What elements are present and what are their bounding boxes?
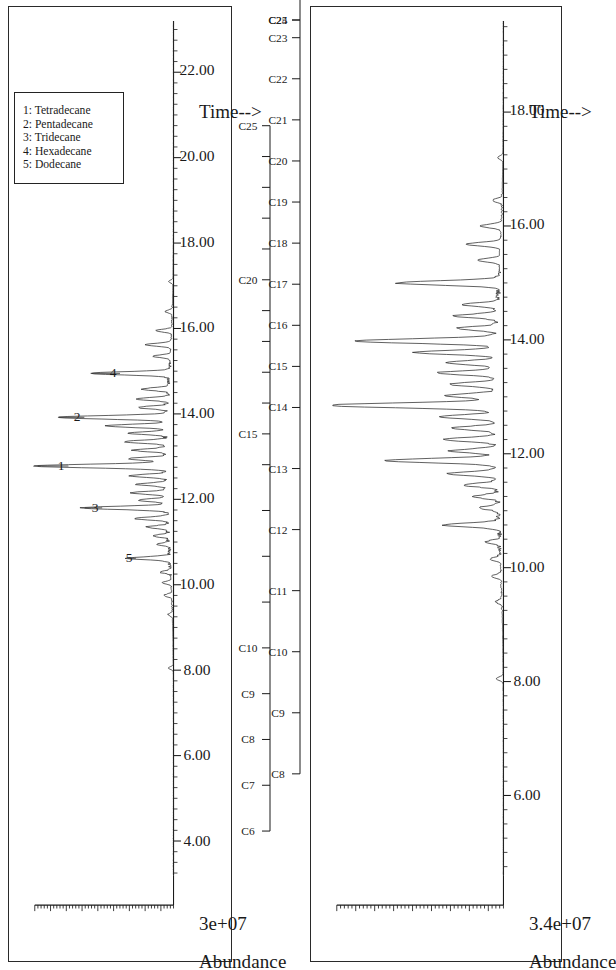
x-axis-tick-label: 22.00: [167, 61, 227, 79]
x-axis-tick-label: 14.00: [167, 404, 227, 422]
x-axis-tick-label: 8.00: [497, 672, 557, 690]
peak-number-label: 5: [126, 550, 133, 566]
panel-bottom-rotated-frame: Abundance 3.4e+07 Time--> 6.008.0010.001…: [310, 6, 562, 962]
carbon-number-tick-label: C16: [258, 319, 298, 331]
chromatogram-trace-bottom: [311, 7, 561, 961]
carbon-number-tick-label: C10: [258, 646, 298, 658]
x-axis-tick-label: 18.00: [497, 101, 557, 119]
peak-number-label: 3: [92, 500, 99, 516]
x-axis-tick-label: 6.00: [167, 746, 227, 764]
carbon-number-tick-label: C7: [228, 779, 268, 791]
carbon-number-tick-label: C14: [258, 401, 298, 413]
carbon-number-tick-label: C23: [258, 32, 298, 44]
carbon-number-tick-label: C25: [258, 14, 298, 26]
x-axis-tick-label: 6.00: [497, 786, 557, 804]
carbon-number-tick-label: C11: [258, 585, 298, 597]
x-axis-tick-label: 8.00: [167, 661, 227, 679]
carbon-number-tick-label: C21: [258, 114, 298, 126]
y-axis-label-bottom: Abundance: [529, 951, 616, 970]
x-axis-tick-label: 12.00: [497, 444, 557, 462]
legend-entry: 1: Tetradecane: [23, 104, 115, 118]
carbon-ruler-ticks-bottom: [266, 6, 312, 962]
carbon-number-tick-label: C8: [258, 768, 298, 780]
x-axis-tick-label: 10.00: [497, 558, 557, 576]
peak-number-label: 1: [58, 458, 65, 474]
carbon-ruler-bottom-rotated-frame: C8C9C10C11C12C13C14C15C16C17C18C19C20C21…: [266, 6, 312, 962]
carbon-number-tick-label: C13: [258, 463, 298, 475]
carbon-number-tick-label: C6: [228, 825, 268, 837]
x-axis-tick-label: 12.00: [167, 489, 227, 507]
x-axis-tick-label: 16.00: [167, 318, 227, 336]
legend-entry: 2: Pentadecane: [23, 118, 115, 132]
carbon-number-tick-label: C15: [258, 360, 298, 372]
x-axis-tick-label: 18.00: [167, 233, 227, 251]
x-axis-tick-label: 20.00: [167, 147, 227, 165]
x-axis-tick-label: 4.00: [167, 832, 227, 850]
carbon-number-tick-label: C12: [258, 524, 298, 536]
x-axis-tick-label: 14.00: [497, 330, 557, 348]
carbon-number-tick-label: C22: [258, 73, 298, 85]
carbon-number-tick-label: C15: [228, 428, 268, 440]
plot-area-bottom: [311, 7, 561, 961]
chromatogram-panel-top: Abundance 3e+07 Time--> 1: Tetradecane2:…: [8, 6, 232, 962]
carbon-number-tick-label: C9: [228, 688, 268, 700]
chromatogram-panel-bottom: Abundance 3.4e+07 Time--> 6.008.0010.001…: [310, 6, 562, 962]
carbon-number-ruler-bottom: C8C9C10C11C12C13C14C15C16C17C18C19C20C21…: [266, 6, 312, 962]
x-axis-tick-label: 16.00: [497, 215, 557, 233]
compound-legend-box: 1: Tetradecane2: Pentadecane3: Tridecane…: [14, 92, 124, 184]
legend-entry: 3: Tridecane: [23, 131, 115, 145]
peak-number-label: 2: [74, 409, 81, 425]
carbon-number-tick-label: C8: [228, 733, 268, 745]
carbon-number-tick-label: C20: [258, 155, 298, 167]
carbon-number-tick-label: C19: [258, 196, 298, 208]
y-axis-scale-value-bottom: 3.4e+07: [529, 913, 591, 935]
carbon-number-tick-label: C18: [258, 237, 298, 249]
carbon-number-tick-label: C17: [258, 278, 298, 290]
peak-number-label: 4: [110, 365, 117, 381]
x-axis-tick-label: 10.00: [167, 575, 227, 593]
carbon-number-tick-label: C9: [258, 707, 298, 719]
legend-entry: 4: Hexadecane: [23, 145, 115, 159]
legend-entry: 5: Dodecane: [23, 158, 115, 172]
panel-top-rotated-frame: Abundance 3e+07 Time--> 1: Tetradecane2:…: [8, 6, 232, 962]
